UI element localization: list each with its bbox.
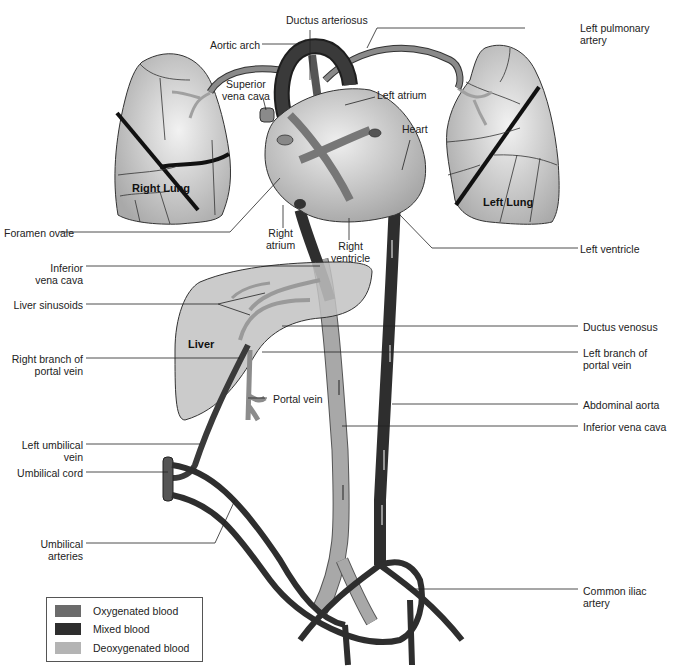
label-portal-vein: Portal vein bbox=[273, 393, 323, 405]
legend-item-deoxygenated: Deoxygenated blood bbox=[55, 641, 189, 655]
label-right-branch-portal-vein: Right branch of portal vein bbox=[0, 353, 83, 377]
label-liver-sinusoids: Liver sinusoids bbox=[0, 299, 83, 311]
swatch-mixed-icon bbox=[55, 623, 81, 635]
label-left-pulmonary-artery: Left pulmonary artery bbox=[580, 22, 649, 46]
label-umbilical-arteries: Umbilical arteries bbox=[0, 538, 83, 562]
abdominal-aorta-vessel bbox=[380, 200, 395, 565]
liver-label: Liver bbox=[188, 338, 214, 350]
heart bbox=[265, 89, 426, 222]
legend-label: Mixed blood bbox=[93, 623, 150, 635]
portal-vein-vessel bbox=[248, 350, 265, 420]
legend-item-mixed: Mixed blood bbox=[55, 622, 150, 636]
label-abdominal-aorta: Abdominal aorta bbox=[583, 399, 659, 411]
legend-label: Oxygenated blood bbox=[93, 605, 178, 617]
umbilical-arteries-vessel bbox=[172, 465, 462, 665]
swatch-deoxygenated-icon bbox=[55, 642, 81, 654]
label-inferior-vena-cava-lower: Inferior vena cava bbox=[583, 421, 666, 433]
label-umbilical-cord: Umbilical cord bbox=[0, 467, 83, 479]
label-ductus-arteriosus: Ductus arteriosus bbox=[286, 14, 368, 26]
label-right-ventricle: Right ventricle bbox=[331, 240, 370, 264]
label-superior-vena-cava: Superior vena cava bbox=[222, 78, 270, 102]
left-lung-label: Left Lung bbox=[483, 196, 533, 208]
label-left-ventricle: Left ventricle bbox=[580, 243, 640, 255]
label-ductus-venosus: Ductus venosus bbox=[583, 321, 658, 333]
legend-item-oxygenated: Oxygenated blood bbox=[55, 604, 178, 618]
heart-label: Heart bbox=[402, 123, 428, 135]
superior-vena-cava-vessel bbox=[260, 108, 274, 122]
label-left-atrium: Left atrium bbox=[377, 89, 427, 101]
right-lung bbox=[115, 54, 231, 224]
legend: Oxygenated blood Mixed blood Deoxygenate… bbox=[46, 597, 203, 662]
label-aortic-arch: Aortic arch bbox=[210, 39, 260, 51]
label-inferior-vena-cava-upper: Inferior vena cava bbox=[0, 262, 83, 286]
swatch-oxygenated-icon bbox=[55, 605, 81, 617]
label-left-branch-portal-vein: Left branch of portal vein bbox=[583, 347, 647, 371]
label-right-atrium: Right atrium bbox=[266, 227, 295, 251]
label-common-iliac-artery: Common iliac artery bbox=[583, 585, 647, 609]
label-foramen-ovale: Foramen ovale bbox=[4, 227, 74, 239]
umbilical-cord-vessel bbox=[163, 457, 173, 501]
legend-label: Deoxygenated blood bbox=[93, 642, 189, 654]
fetal-circulation-diagram bbox=[0, 0, 678, 671]
label-left-umbilical-vein: Left umbilical vein bbox=[0, 439, 83, 463]
right-lung-label: Right Lung bbox=[132, 182, 190, 194]
